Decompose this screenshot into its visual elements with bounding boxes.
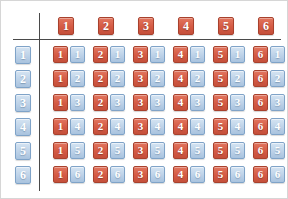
outcome-1-6-blue-die: 6 — [70, 166, 85, 183]
outcome-4-1-red-die: 4 — [173, 46, 188, 63]
outcome-6-2-red-die: 6 — [253, 70, 268, 87]
outcome-5-6-blue-die: 6 — [230, 166, 245, 183]
outcome-5-3-red-die: 5 — [213, 94, 228, 111]
outcome-5-2-blue-die: 2 — [230, 70, 245, 87]
outcome-4-6-red-die: 4 — [173, 166, 188, 183]
outcome-4-3-blue-die: 3 — [190, 94, 205, 111]
outcome-2-1-blue-die: 1 — [110, 46, 125, 63]
column-header-tile-5: 5 — [218, 17, 234, 35]
outcome-5-1-red-die: 5 — [213, 46, 228, 63]
outcome-4-4-blue-die: 4 — [190, 118, 205, 135]
column-header-tile-4: 4 — [178, 17, 194, 35]
row-header-tile-4: 4 — [15, 118, 31, 136]
outcome-6-5-red-die: 6 — [253, 142, 268, 159]
outcome-2-6-red-die: 2 — [93, 166, 108, 183]
outcome-4-4-red-die: 4 — [173, 118, 188, 135]
outcome-2-1-red-die: 2 — [93, 46, 108, 63]
outcome-3-2-blue-die: 2 — [150, 70, 165, 87]
outcome-3-2-red-die: 3 — [133, 70, 148, 87]
outcome-4-3-red-die: 4 — [173, 94, 188, 111]
row-header-tile-2: 2 — [15, 70, 31, 88]
outcome-3-5-blue-die: 5 — [150, 142, 165, 159]
row-header-tile-5: 5 — [15, 142, 31, 160]
outcome-6-6-red-die: 6 — [253, 166, 268, 183]
outcome-4-2-blue-die: 2 — [190, 70, 205, 87]
outcome-5-3-blue-die: 3 — [230, 94, 245, 111]
outcome-1-2-red-die: 1 — [53, 70, 68, 87]
outcome-6-4-red-die: 6 — [253, 118, 268, 135]
outcome-3-1-red-die: 3 — [133, 46, 148, 63]
outcome-1-4-red-die: 1 — [53, 118, 68, 135]
outcome-5-1-blue-die: 1 — [230, 46, 245, 63]
outcome-3-6-blue-die: 6 — [150, 166, 165, 183]
column-header-tile-3: 3 — [138, 17, 154, 35]
outcome-6-6-blue-die: 6 — [270, 166, 285, 183]
outcome-5-4-blue-die: 4 — [230, 118, 245, 135]
outcome-1-3-blue-die: 3 — [70, 94, 85, 111]
outcome-6-4-blue-die: 4 — [270, 118, 285, 135]
outcome-4-6-blue-die: 6 — [190, 166, 205, 183]
outcome-4-5-red-die: 4 — [173, 142, 188, 159]
outcome-2-3-blue-die: 3 — [110, 94, 125, 111]
outcome-6-1-blue-die: 1 — [270, 46, 285, 63]
column-header-tile-2: 2 — [98, 17, 114, 35]
outcome-1-6-red-die: 1 — [53, 166, 68, 183]
outcome-6-5-blue-die: 5 — [270, 142, 285, 159]
outcome-4-5-blue-die: 5 — [190, 142, 205, 159]
vertical-axis-rule — [39, 13, 40, 191]
outcome-5-2-red-die: 5 — [213, 70, 228, 87]
outcome-3-6-red-die: 3 — [133, 166, 148, 183]
outcome-3-3-blue-die: 3 — [150, 94, 165, 111]
outcome-5-4-red-die: 5 — [213, 118, 228, 135]
outcome-1-5-red-die: 1 — [53, 142, 68, 159]
outcome-5-6-red-die: 5 — [213, 166, 228, 183]
outcome-3-1-blue-die: 1 — [150, 46, 165, 63]
outcome-4-2-red-die: 4 — [173, 70, 188, 87]
outcome-1-4-blue-die: 4 — [70, 118, 85, 135]
outcome-3-4-red-die: 3 — [133, 118, 148, 135]
outcome-4-1-blue-die: 1 — [190, 46, 205, 63]
outcome-2-4-red-die: 2 — [93, 118, 108, 135]
column-header-tile-6: 6 — [258, 17, 274, 35]
row-header-tile-6: 6 — [15, 166, 31, 184]
outcome-2-4-blue-die: 4 — [110, 118, 125, 135]
outcome-2-2-blue-die: 2 — [110, 70, 125, 87]
row-header-tile-1: 1 — [15, 46, 31, 64]
outcome-5-5-blue-die: 5 — [230, 142, 245, 159]
outcome-1-3-red-die: 1 — [53, 94, 68, 111]
outcome-5-5-red-die: 5 — [213, 142, 228, 159]
row-header-tile-3: 3 — [15, 94, 31, 112]
column-header-tile-1: 1 — [58, 17, 74, 35]
outcome-1-1-blue-die: 1 — [70, 46, 85, 63]
outcome-6-3-red-die: 6 — [253, 94, 268, 111]
outcome-2-5-red-die: 2 — [93, 142, 108, 159]
outcome-3-5-red-die: 3 — [133, 142, 148, 159]
outcome-2-3-red-die: 2 — [93, 94, 108, 111]
outcome-2-5-blue-die: 5 — [110, 142, 125, 159]
outcome-2-6-blue-die: 6 — [110, 166, 125, 183]
dice-sample-space-figure: 123456 123456 11213141516112223242526213… — [0, 0, 288, 199]
outcome-1-5-blue-die: 5 — [70, 142, 85, 159]
outcome-3-3-red-die: 3 — [133, 94, 148, 111]
outcome-1-2-blue-die: 2 — [70, 70, 85, 87]
outcome-3-4-blue-die: 4 — [150, 118, 165, 135]
outcome-6-2-blue-die: 2 — [270, 70, 285, 87]
outcome-6-3-blue-die: 3 — [270, 94, 285, 111]
horizontal-axis-rule — [13, 39, 281, 40]
outcome-2-2-red-die: 2 — [93, 70, 108, 87]
outcome-6-1-red-die: 6 — [253, 46, 268, 63]
outcome-1-1-red-die: 1 — [53, 46, 68, 63]
